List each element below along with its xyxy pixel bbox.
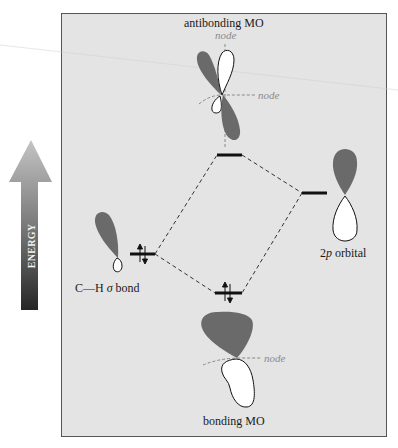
p-orbital-label-suffix: orbital bbox=[332, 246, 366, 260]
p-orbital-label: 2p orbital bbox=[320, 246, 366, 261]
mo-diagram: antibonding MO node node ENERGY C—H σ bo… bbox=[0, 0, 398, 448]
energy-axis-label: ENERGY bbox=[26, 224, 37, 269]
node-label-bonding: node bbox=[264, 352, 285, 364]
sigma-bond-label-prefix: C—H bbox=[75, 281, 107, 295]
node-label-horizontal: node bbox=[258, 89, 279, 101]
sigma-bond-label: C—H σ bond bbox=[75, 281, 140, 296]
node-label-vertical: node bbox=[215, 29, 236, 41]
sigma-bond-label-suffix: bond bbox=[113, 281, 140, 295]
bonding-mo-title: bonding MO bbox=[203, 414, 265, 429]
